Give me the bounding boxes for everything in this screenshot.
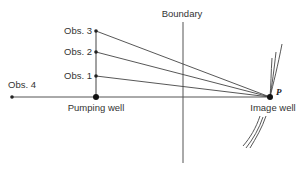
obs-4-label: Obs. 4	[8, 79, 36, 90]
obs-3-point	[94, 29, 98, 33]
obs-1-label: Obs. 1	[64, 70, 92, 81]
obs-1-point	[94, 74, 98, 78]
pumping-well-point	[93, 94, 99, 100]
obs-2-point	[94, 50, 98, 54]
image-well-diagram: Boundary Obs. 3 Obs. 2 Obs. 1 Obs. 4 Pum…	[0, 0, 308, 171]
image-well-label: Image well	[250, 102, 295, 113]
pumping-well-label: Pumping well	[68, 102, 125, 113]
image-well-point	[267, 94, 273, 100]
obs-4-point	[10, 95, 14, 99]
obs-2-label: Obs. 2	[64, 46, 92, 57]
boundary-label: Boundary	[162, 8, 203, 19]
obs-3-label: Obs. 3	[64, 25, 92, 36]
point-p-label: P	[276, 87, 282, 97]
flow-curve-5	[246, 117, 263, 148]
